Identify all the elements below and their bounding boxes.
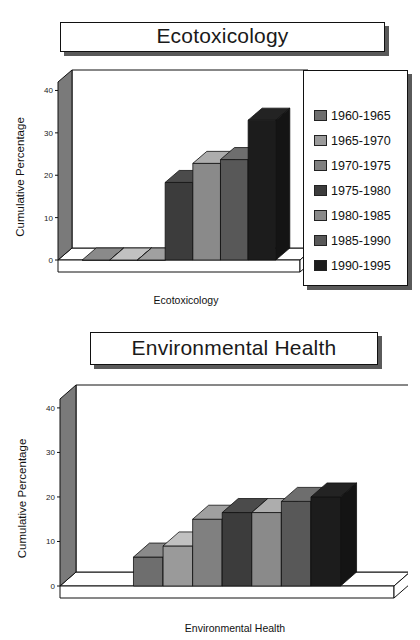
legend-swatch-icon [314, 185, 327, 196]
legend-swatch-icon [314, 135, 327, 146]
legend-item[interactable]: 1980-1985 [314, 205, 407, 226]
plot-area-ecotoxicology: 010203040Cumulative PercentageEcotoxicol… [8, 60, 308, 310]
legend-swatch-icon [314, 260, 327, 271]
legend-item[interactable]: 1965-1970 [314, 130, 407, 151]
y-axis-wall [60, 385, 76, 586]
legend-swatch-icon [314, 160, 327, 171]
y-axis-wall [58, 70, 72, 260]
legend-item-label: 1990-1995 [331, 259, 391, 273]
legend-item-label: 1965-1970 [331, 134, 391, 148]
plot-floor-front [60, 586, 394, 598]
y-axis-tick-label: 20 [46, 493, 55, 502]
bar-front-face [248, 120, 276, 260]
chart-title-box: Environmental Health [90, 332, 378, 365]
plot-floor-front [58, 260, 300, 272]
legend-item-label: 1970-1975 [331, 159, 391, 173]
bar-front-face [193, 163, 221, 260]
legend-item[interactable]: 1970-1975 [314, 155, 407, 176]
bar-3d[interactable] [311, 483, 357, 586]
legend-item[interactable]: 1990-1995 [314, 255, 407, 276]
y-axis-title: Cumulative Percentage [14, 117, 26, 237]
legend-item[interactable]: 1975-1980 [314, 180, 407, 201]
chart-title-text: Ecotoxicology [156, 24, 288, 47]
x-axis-title: Environmental Health [185, 622, 286, 634]
chart-panel-environmental-health: Environmental Health 010203040Cumulative… [0, 320, 420, 640]
legend-swatch-icon [314, 110, 327, 121]
y-axis-tick-label: 40 [46, 404, 55, 413]
bar-front-face [222, 513, 252, 586]
bar-front-face [281, 501, 311, 586]
legend-swatch-icon [314, 235, 327, 246]
legend-item-label: 1980-1985 [331, 209, 391, 223]
legend-item[interactable]: 1960-1965 [314, 105, 407, 126]
y-axis-tick-label: 0 [51, 582, 56, 591]
y-axis-tick-label: 10 [46, 537, 55, 546]
plot-area-environmental-health: 010203040Cumulative PercentageEnvironmen… [8, 375, 408, 640]
bar-side-face [341, 483, 357, 586]
bar-front-face [163, 546, 193, 586]
legend-item-label: 1985-1990 [331, 234, 391, 248]
bar-3d[interactable] [248, 108, 290, 260]
chart-title-text: Environmental Health [132, 336, 337, 359]
legend-item[interactable]: 1985-1990 [314, 230, 407, 251]
chart-title-plaque-top: Ecotoxicology [60, 22, 385, 52]
bar-front-face [220, 160, 248, 260]
x-axis-title: Ecotoxicology [154, 294, 220, 306]
y-axis-tick-label: 10 [44, 214, 53, 223]
y-axis-tick-label: 30 [44, 129, 53, 138]
bar-front-face [311, 497, 341, 586]
y-axis-tick-label: 20 [44, 171, 53, 180]
bar-front-face [252, 513, 282, 586]
y-axis-tick-label: 40 [44, 86, 53, 95]
chart-title-box: Ecotoxicology [60, 22, 385, 52]
bar-front-face [133, 557, 163, 586]
bar-side-face [276, 108, 290, 260]
legend-panel: 1960-19651965-19701970-19751975-19801980… [303, 70, 408, 286]
figure-page: Ecotoxicology 010203040Cumulative Percen… [0, 0, 420, 640]
chart-title-plaque-bottom: Environmental Health [90, 332, 378, 365]
legend-item-label: 1975-1980 [331, 184, 391, 198]
chart-panel-ecotoxicology: Ecotoxicology 010203040Cumulative Percen… [0, 0, 420, 320]
legend-box: 1960-19651965-19701970-19751975-19801980… [303, 70, 408, 286]
y-axis-title: Cumulative Percentage [16, 439, 28, 559]
bar-front-face [193, 519, 223, 586]
y-axis-tick-label: 30 [46, 448, 55, 457]
bar-front-face [165, 182, 193, 260]
legend-item-label: 1960-1965 [331, 109, 391, 123]
y-axis-tick-label: 0 [49, 256, 54, 265]
legend-swatch-icon [314, 210, 327, 221]
